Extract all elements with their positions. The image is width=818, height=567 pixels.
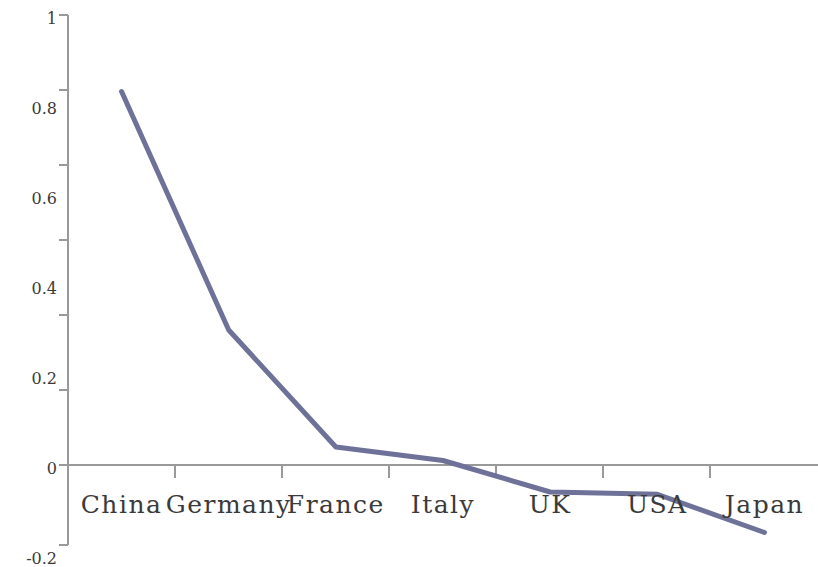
x-category-label-japan: Japan bbox=[725, 492, 804, 517]
x-category-label-uk: UK bbox=[529, 492, 572, 517]
line-chart: 10.80.60.40.20-0.2 ChinaGermanyFranceIta… bbox=[0, 0, 818, 567]
x-category-label-china: China bbox=[81, 492, 163, 517]
x-axis-category-labels: ChinaGermanyFranceItalyUKUSAJapan bbox=[0, 0, 818, 567]
x-category-label-germany: Germany bbox=[166, 492, 292, 517]
x-category-label-france: France bbox=[287, 492, 385, 517]
x-category-label-italy: Italy bbox=[411, 492, 475, 517]
x-category-label-usa: USA bbox=[627, 492, 688, 517]
